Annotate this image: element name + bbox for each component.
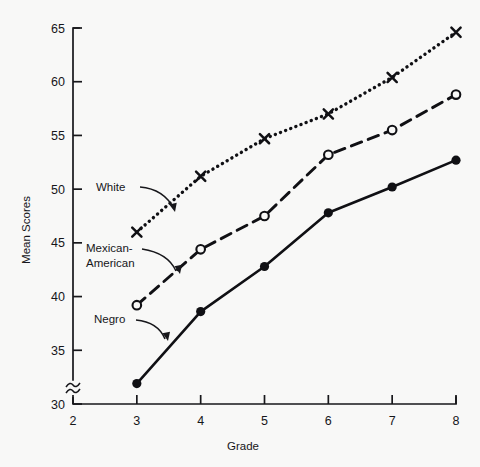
data-point-open-circle	[196, 245, 205, 254]
x-tick-label: 4	[197, 414, 204, 428]
x-tick-label: 5	[261, 414, 268, 428]
data-point-filled-circle	[196, 307, 205, 316]
line-chart: 3035404550556065 2345678 Mean Scores Gra…	[0, 0, 480, 467]
x-axis-title: Grade	[227, 440, 259, 452]
annotation-label: Negro	[94, 313, 125, 325]
data-point-open-circle	[133, 301, 142, 310]
data-point-filled-circle	[132, 379, 141, 388]
chart-background	[0, 0, 480, 467]
x-tick-label: 7	[389, 414, 396, 428]
y-tick-label: 50	[51, 183, 65, 197]
y-tick-label: 45	[51, 236, 65, 250]
data-point-open-circle	[260, 212, 269, 221]
x-tick-label: 3	[133, 414, 140, 428]
y-tick-label: 30	[51, 398, 65, 412]
data-point-filled-circle	[388, 182, 397, 191]
data-point-filled-circle	[260, 262, 269, 271]
y-tick-label: 55	[51, 129, 65, 143]
data-point-open-circle	[388, 126, 397, 135]
y-tick-label: 65	[51, 22, 65, 36]
y-tick-label: 60	[51, 75, 65, 89]
y-tick-label: 35	[51, 344, 65, 358]
data-point-filled-circle	[451, 156, 460, 165]
y-tick-label: 40	[51, 290, 65, 304]
chart-container: 3035404550556065 2345678 Mean Scores Gra…	[0, 0, 480, 467]
data-point-open-circle	[324, 150, 333, 159]
x-tick-label: 6	[325, 414, 332, 428]
data-point-open-circle	[452, 90, 461, 99]
y-axis-title: Mean Scores	[20, 196, 32, 264]
annotation-label: Mexican-	[86, 242, 133, 254]
annotation-label: White	[96, 181, 125, 193]
data-point-filled-circle	[324, 208, 333, 217]
x-tick-label: 8	[453, 414, 460, 428]
annotation-label: American	[86, 257, 135, 269]
x-tick-label: 2	[70, 414, 77, 428]
